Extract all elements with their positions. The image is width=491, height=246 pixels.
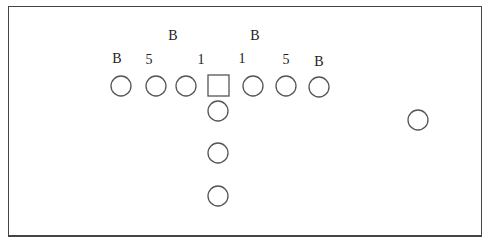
lineman-circle — [146, 76, 166, 96]
back-circle — [208, 101, 228, 121]
wide-receiver-circle — [408, 110, 428, 130]
position-label: 5 — [283, 52, 290, 67]
lineman-circle — [243, 76, 263, 96]
lineman-circle — [111, 76, 131, 96]
position-label: 5 — [146, 52, 153, 67]
position-label: 1 — [239, 51, 246, 66]
lineman-circle — [176, 76, 196, 96]
lineman-circle — [309, 77, 329, 97]
position-label: B — [112, 51, 121, 66]
lineman-circle — [276, 76, 296, 96]
back-circle — [208, 186, 228, 206]
position-label: B — [168, 28, 177, 43]
position-label: B — [250, 28, 259, 43]
position-label: 1 — [198, 52, 205, 67]
center-square — [208, 75, 229, 96]
back-circle — [208, 143, 228, 163]
position-label: B — [314, 54, 323, 69]
formation-diagram: BBB5115B — [0, 0, 491, 246]
